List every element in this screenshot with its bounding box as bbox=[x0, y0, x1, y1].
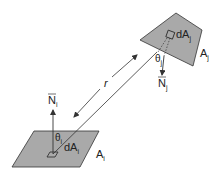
connecting-line bbox=[53, 52, 157, 154]
distance-arrow-lower bbox=[74, 89, 100, 117]
label-Nj: Nj bbox=[158, 77, 168, 92]
label-Ni: Ni bbox=[48, 94, 58, 108]
label-theta-j: θj bbox=[155, 53, 163, 67]
label-Ai: Ai bbox=[96, 148, 105, 162]
label-Aj: Aj bbox=[200, 47, 209, 62]
patch-j bbox=[140, 13, 202, 66]
label-dAi: dAi bbox=[64, 141, 79, 155]
distance-arrow-upper bbox=[112, 55, 137, 77]
label-r: r bbox=[104, 77, 109, 89]
normal-j-arrow bbox=[162, 56, 164, 75]
radiosity-form-factor-diagram: dAj θj Aj Nj r Ni θi dAi Ai bbox=[0, 0, 221, 177]
